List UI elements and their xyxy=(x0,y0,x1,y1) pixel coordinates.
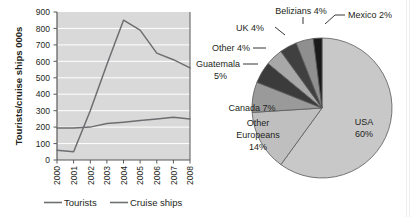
x-tick-label: 2003 xyxy=(102,166,112,185)
pie-label-other-europeans-pct: 14% xyxy=(249,142,267,152)
x-tick-label: 2001 xyxy=(69,166,79,185)
charts-svg: 900 800 700 600 500 400 300 200 100 0 To… xyxy=(0,0,420,217)
x-tick-label: 2006 xyxy=(152,166,162,185)
pie-label-uk: UK 4% xyxy=(236,23,264,33)
y-tick-label: 100 xyxy=(36,139,50,149)
pie-label-belizians: Belizians 4% xyxy=(275,6,327,16)
y-tick-label: 300 xyxy=(36,106,50,116)
legend-label-cruise-ships: Cruise ships xyxy=(130,197,183,208)
pie-label-usa: USA xyxy=(355,117,374,127)
pie-chart: Mexico 2% Belizians 4% UK 4% Other 4% Gu… xyxy=(196,6,392,178)
pie-label-other: Other 4% xyxy=(212,43,250,53)
pie-label-other-europeans: Other xyxy=(247,118,270,128)
y-tick-label: 800 xyxy=(36,24,50,34)
y-tick-label: 200 xyxy=(36,122,50,132)
x-tick-label: 2002 xyxy=(86,166,96,185)
pie-label-guatemala-pct: 5% xyxy=(214,71,227,81)
x-tick-label: 2000 xyxy=(52,166,62,185)
pie-label-canada: Canada 7% xyxy=(228,103,275,113)
pie-label-other-europeans-2: Europeans xyxy=(236,130,280,140)
line-chart: 900 800 700 600 500 400 300 200 100 0 To… xyxy=(13,7,195,208)
pie-label-usa-pct: 60% xyxy=(355,129,373,139)
x-tick-labels: 2000 2001 2002 2003 2004 2005 2006 2007 … xyxy=(52,166,195,185)
pie-label-mexico: Mexico 2% xyxy=(348,10,392,20)
leader-line-mexico-2 xyxy=(325,15,335,24)
page-edge-line-right xyxy=(409,0,410,217)
pie-label-guatemala: Guatemala xyxy=(196,59,240,69)
y-axis-title: Tourists/cruise ships 000s xyxy=(13,27,24,146)
y-tick-label: 600 xyxy=(36,57,50,67)
legend-label-tourists: Tourists xyxy=(64,197,97,208)
y-tick-label: 400 xyxy=(36,89,50,99)
x-tick-label: 2004 xyxy=(119,166,129,185)
y-tick-label: 900 xyxy=(36,7,50,17)
x-tick-label: 2007 xyxy=(169,166,179,185)
y-tick-label: 700 xyxy=(36,40,50,50)
y-tick-label: 500 xyxy=(36,73,50,83)
y-tick-labels: 900 800 700 600 500 400 300 200 100 0 xyxy=(36,7,50,165)
x-tick-label: 2005 xyxy=(135,166,145,185)
figure-container: 900 800 700 600 500 400 300 200 100 0 To… xyxy=(0,0,420,217)
y-tick-label: 0 xyxy=(45,155,50,165)
page-edge-line-left xyxy=(406,0,407,217)
leader-line-uk xyxy=(275,27,285,35)
x-tick-label: 2008 xyxy=(185,166,195,185)
plot-background xyxy=(57,12,190,160)
legend: Tourists Cruise ships xyxy=(44,197,183,208)
